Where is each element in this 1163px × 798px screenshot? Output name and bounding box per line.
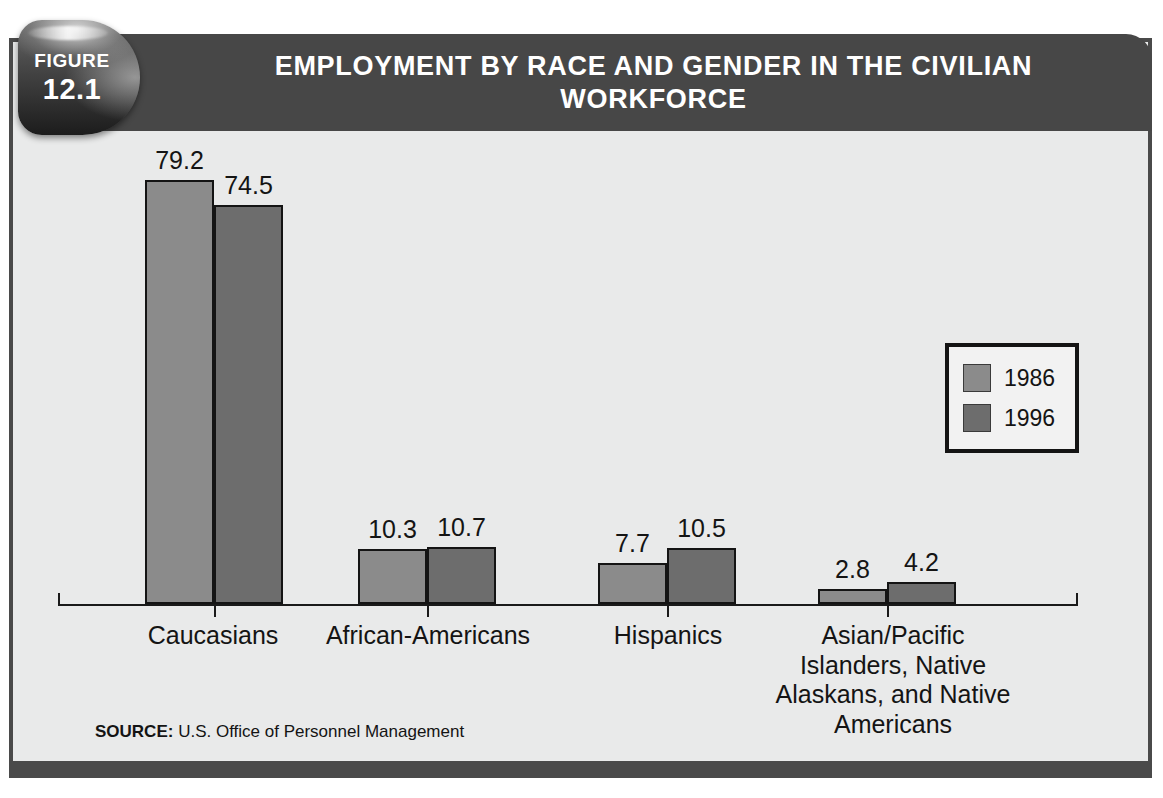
legend-item-label: 1996: [1004, 405, 1055, 432]
x-axis-end-cap: [1076, 593, 1078, 606]
bar-group: 7.710.5: [598, 548, 736, 604]
category-label-line: Islanders, Native: [743, 651, 1043, 681]
bar-column: 10.3: [358, 549, 427, 604]
x-axis-line: [58, 604, 1078, 606]
x-axis-end-cap: [58, 593, 60, 606]
figure-page: EMPLOYMENT BY RACE AND GENDER IN THE CIV…: [0, 0, 1163, 798]
bar-column: 74.5: [214, 205, 283, 604]
x-axis-tick: [887, 606, 889, 617]
category-label-line: Asian/Pacific: [743, 621, 1043, 651]
bar-1996: [887, 582, 956, 604]
category-label-line: Americans: [743, 710, 1043, 740]
legend-item-label: 1986: [1004, 365, 1055, 392]
bar-value-label: 10.3: [368, 515, 417, 544]
legend-swatch-icon: [963, 404, 991, 432]
legend-item: 1996: [963, 404, 1075, 432]
bar-1986: [818, 589, 887, 604]
bar-1986: [598, 563, 667, 604]
bar-value-label: 10.7: [437, 513, 486, 542]
x-axis-category-label: Asian/PacificIslanders, NativeAlaskans, …: [743, 621, 1043, 739]
bar-column: 7.7: [598, 563, 667, 604]
figure-badge-number: 12.1: [43, 73, 101, 106]
bar-value-label: 74.5: [224, 171, 273, 200]
source-text: U.S. Office of Personnel Management: [173, 722, 464, 741]
bar-value-label: 2.8: [835, 555, 870, 584]
bar-column: 10.5: [667, 548, 736, 604]
bar-chart-plot: 79.274.510.310.77.710.52.84.2: [58, 151, 1078, 606]
chart-area: 79.274.510.310.77.710.52.84.2 1986 1996 …: [13, 131, 1148, 761]
bar-value-label: 7.7: [615, 529, 650, 558]
page-title: EMPLOYMENT BY RACE AND GENDER IN THE CIV…: [215, 50, 1092, 116]
bar-group: 79.274.5: [145, 180, 283, 604]
legend-item: 1986: [963, 364, 1075, 392]
source-label: SOURCE:: [95, 722, 173, 741]
figure-title-bar: EMPLOYMENT BY RACE AND GENDER IN THE CIV…: [85, 34, 1152, 131]
x-axis-tick: [667, 606, 669, 617]
x-axis-tick: [427, 606, 429, 617]
category-label-line: Alaskans, and Native: [743, 680, 1043, 710]
figure-bottom-bar: [9, 765, 1152, 778]
bar-column: 79.2: [145, 180, 214, 604]
bar-value-label: 10.5: [677, 514, 726, 543]
source-note: SOURCE: U.S. Office of Personnel Managem…: [95, 722, 464, 742]
bar-group: 10.310.7: [358, 547, 496, 604]
bar-value-label: 4.2: [904, 548, 939, 577]
figure-number-badge: FIGURE 12.1: [18, 20, 140, 135]
bar-column: 10.7: [427, 547, 496, 604]
x-axis-tick: [214, 606, 216, 617]
legend-swatch-icon: [963, 364, 991, 392]
bar-1996: [427, 547, 496, 604]
figure-badge-word: FIGURE: [34, 50, 109, 72]
bar-column: 2.8: [818, 589, 887, 604]
bar-1996: [667, 548, 736, 604]
chart-legend: 1986 1996: [945, 343, 1079, 453]
bar-1996: [214, 205, 283, 604]
bar-1986: [145, 180, 214, 604]
bar-value-label: 79.2: [155, 146, 204, 175]
bar-group: 2.84.2: [818, 582, 956, 604]
bar-1986: [358, 549, 427, 604]
bar-column: 4.2: [887, 582, 956, 604]
